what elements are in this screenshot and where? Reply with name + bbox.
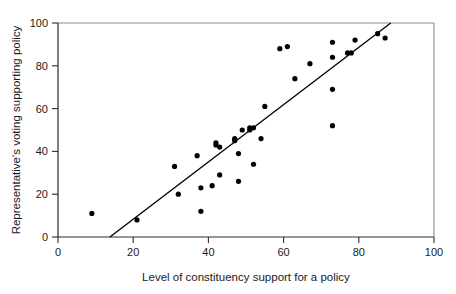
y-tick-label-20: 20 bbox=[36, 188, 48, 200]
data-point bbox=[198, 209, 203, 214]
x-tick-label-60: 60 bbox=[277, 246, 289, 258]
x-axis-title: Level of constituency support for a poli… bbox=[142, 271, 350, 283]
y-tick-label-40: 40 bbox=[36, 145, 48, 157]
data-point bbox=[210, 183, 215, 188]
x-tick-label-100: 100 bbox=[425, 246, 443, 258]
y-tick-label-60: 60 bbox=[36, 103, 48, 115]
data-point bbox=[236, 179, 241, 184]
y-axis-title: Representative's voting supporting polic… bbox=[10, 25, 22, 234]
x-tick-label-20: 20 bbox=[127, 246, 139, 258]
data-point bbox=[352, 38, 357, 43]
data-point bbox=[277, 46, 282, 51]
scatter-plot-figure: 0 20 40 60 80 100 0 20 40 60 80 100 Leve… bbox=[0, 0, 456, 294]
x-tick-label-80: 80 bbox=[353, 246, 365, 258]
x-tick-label-40: 40 bbox=[202, 246, 214, 258]
data-point bbox=[292, 76, 297, 81]
x-axis: 0 20 40 60 80 100 bbox=[55, 237, 443, 258]
data-point bbox=[262, 104, 267, 109]
data-point bbox=[251, 162, 256, 167]
data-point bbox=[240, 127, 245, 132]
y-tick-label-100: 100 bbox=[30, 17, 48, 29]
data-point bbox=[236, 151, 241, 156]
y-tick-label-80: 80 bbox=[36, 60, 48, 72]
data-point bbox=[217, 145, 222, 150]
data-point bbox=[195, 153, 200, 158]
data-point bbox=[232, 138, 237, 143]
data-point bbox=[330, 55, 335, 60]
data-point bbox=[330, 123, 335, 128]
data-point bbox=[176, 192, 181, 197]
data-point bbox=[307, 61, 312, 66]
data-point bbox=[251, 125, 256, 130]
y-tick-label-0: 0 bbox=[42, 231, 48, 243]
y-axis: 0 20 40 60 80 100 bbox=[30, 17, 58, 243]
data-point bbox=[349, 50, 354, 55]
data-point bbox=[89, 211, 94, 216]
data-point bbox=[198, 185, 203, 190]
x-tick-label-0: 0 bbox=[55, 246, 61, 258]
data-point bbox=[217, 172, 222, 177]
data-point bbox=[258, 136, 263, 141]
chart-canvas: 0 20 40 60 80 100 0 20 40 60 80 100 Leve… bbox=[0, 0, 456, 294]
data-point bbox=[134, 217, 139, 222]
plot-frame bbox=[58, 23, 434, 237]
data-point bbox=[285, 44, 290, 49]
data-point bbox=[383, 35, 388, 40]
data-point bbox=[330, 40, 335, 45]
data-point bbox=[375, 31, 380, 36]
data-point bbox=[172, 164, 177, 169]
data-point bbox=[330, 87, 335, 92]
